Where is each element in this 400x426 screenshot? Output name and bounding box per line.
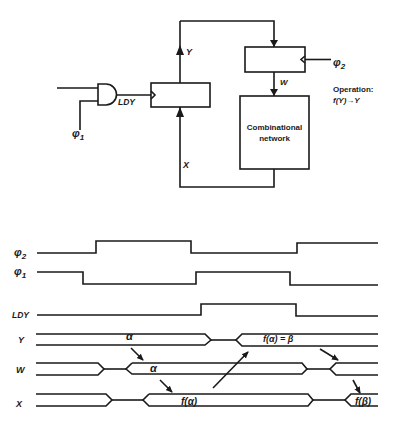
and-gate [57, 84, 151, 130]
combinational-network [240, 96, 309, 169]
sig-label-phi2: φ2 [14, 246, 27, 261]
y-label: Y [186, 47, 193, 57]
sig-label-w: W [16, 365, 26, 375]
comb-label-2: network [259, 134, 290, 143]
x-feedback-line [180, 107, 274, 187]
causality-arrows [131, 348, 360, 393]
w-alpha: α [150, 362, 158, 374]
register-w [245, 47, 305, 72]
waveform-phi1 [37, 272, 378, 285]
phi1-label: φ1 [72, 127, 85, 142]
x-f-alpha: f(α) [181, 396, 198, 407]
operation-expr: f(Y)→Y [333, 96, 360, 105]
waveform-phi2 [37, 241, 378, 253]
sig-label-ldy: LDY [12, 310, 30, 320]
waveform-ldy [37, 304, 378, 316]
sig-label-y: Y [18, 335, 25, 345]
w-label: W [280, 78, 289, 87]
register-transfer-diagram: LDY φ1 Y φ2 W Combinational network X Op… [0, 0, 400, 426]
ldy-label: LDY [118, 97, 136, 107]
x-label: X [182, 160, 190, 170]
comb-label-1: Combinational [247, 123, 303, 132]
waveform-x [36, 394, 378, 406]
operation-title: Operation: [333, 85, 373, 94]
waveform-w [36, 363, 378, 375]
y-beta: f(α) = β [263, 334, 294, 344]
register-y [151, 83, 210, 107]
x-f-beta: f(β) [355, 396, 372, 407]
waveform-y [36, 334, 378, 346]
y-alpha: α [126, 330, 134, 342]
sig-label-x: X [15, 399, 23, 409]
sig-label-phi1: φ1 [14, 265, 27, 280]
phi2-label: φ2 [333, 56, 346, 71]
